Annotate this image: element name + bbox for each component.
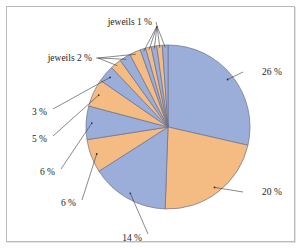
pie-chart-canvas: 26 %20 %14 %6 %6 %5 %3 %jeweils 2 %jewei… — [0, 0, 301, 248]
pie-chart-figure: 26 %20 %14 %6 %6 %5 %3 %jeweils 2 %jewei… — [0, 0, 301, 248]
pie-slices — [86, 45, 250, 209]
pie-label-6: 6 % — [40, 167, 55, 177]
leader-dot — [214, 187, 216, 189]
leader-dot — [91, 122, 93, 124]
leader-dot — [98, 94, 100, 96]
leader-dot — [109, 77, 111, 79]
leader-line — [156, 22, 157, 26]
pie-label-3: 3 % — [32, 107, 47, 117]
pie-label-jeweils1: jeweils 1 % — [107, 17, 152, 27]
leader-line — [82, 154, 97, 200]
pie-label-jeweils2: jeweils 2 % — [47, 53, 92, 63]
leader-dot — [227, 79, 229, 81]
leader-line — [98, 58, 126, 59]
leader-dot — [96, 153, 98, 155]
leader-line — [98, 58, 117, 66]
pie-label-26: 26 % — [262, 67, 282, 77]
pie-label-14: 14 % — [122, 233, 142, 243]
pie-label-6: 6 % — [61, 198, 76, 208]
leader-line — [61, 123, 92, 169]
pie-label-5: 5 % — [32, 134, 47, 144]
leader-dot — [129, 192, 131, 194]
pie-label-20: 20 % — [262, 187, 282, 197]
